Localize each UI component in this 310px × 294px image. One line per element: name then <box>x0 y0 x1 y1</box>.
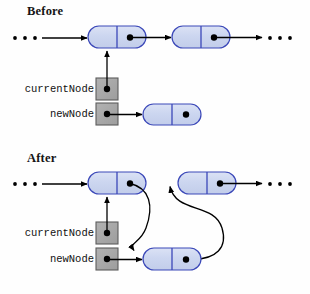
after-new-node <box>143 248 201 270</box>
pointer-dot <box>183 256 189 262</box>
left-ellipsis-before <box>13 36 37 40</box>
before-new-node-label: newNode <box>22 108 94 120</box>
before-section-title: Before <box>27 4 63 19</box>
diagram-canvas <box>0 0 310 294</box>
right-ellipsis-after <box>268 182 292 186</box>
right-ellipsis-before <box>268 36 292 40</box>
after-list-node-1 <box>88 172 146 194</box>
pointer-dot <box>183 111 189 117</box>
after-current-node-label: currentNode <box>22 227 94 239</box>
after-new-node-label: newNode <box>22 253 94 265</box>
left-ellipsis-after <box>13 182 37 186</box>
after-section-title: After <box>27 151 56 166</box>
before-current-node-label: currentNode <box>22 83 94 95</box>
before-new-node <box>143 104 201 125</box>
linked-list-insertion-diagram: Before currentNode newNode After current… <box>0 0 310 294</box>
